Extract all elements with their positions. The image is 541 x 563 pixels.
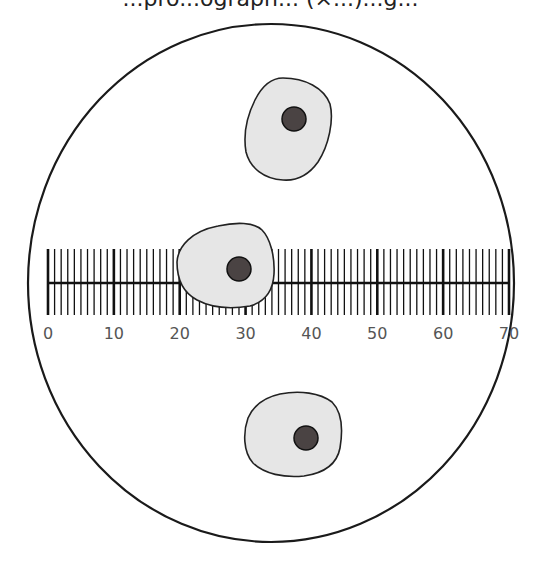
cell-nucleus	[282, 107, 306, 131]
scale-label: 10	[104, 324, 124, 343]
cell-cytoplasm	[245, 392, 342, 476]
scale-label: 0	[43, 324, 53, 343]
scale-label: 70	[499, 324, 519, 343]
scale-label: 40	[301, 324, 321, 343]
bottom-cell	[245, 392, 342, 476]
cell-cytoplasm	[177, 223, 274, 307]
scale-label: 20	[170, 324, 190, 343]
scale-label: 50	[367, 324, 387, 343]
cell-nucleus	[227, 257, 251, 281]
cell-nucleus	[294, 426, 318, 450]
scale-label: 60	[433, 324, 453, 343]
middle-cell	[177, 223, 274, 307]
scale-label: 30	[235, 324, 255, 343]
microscope-diagram: 010203040506070	[0, 0, 541, 563]
